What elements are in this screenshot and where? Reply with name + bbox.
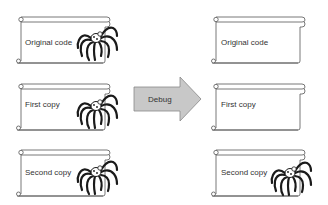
scroll-label: Second copy (25, 168, 71, 177)
scroll-label: First copy (221, 100, 256, 109)
scroll-label: Original code (25, 38, 73, 47)
scroll-label: Original code (221, 38, 269, 47)
right-scroll-original: Original code (212, 17, 306, 63)
debug-arrow: Debug (134, 77, 201, 121)
arrow-label: Debug (148, 95, 172, 104)
debug-diagram: Original code First copy Second copy Deb… (0, 0, 328, 205)
right-scroll-first-copy: First copy (212, 84, 306, 130)
scroll-label: Second copy (221, 168, 267, 177)
scroll-label: First copy (25, 100, 60, 109)
